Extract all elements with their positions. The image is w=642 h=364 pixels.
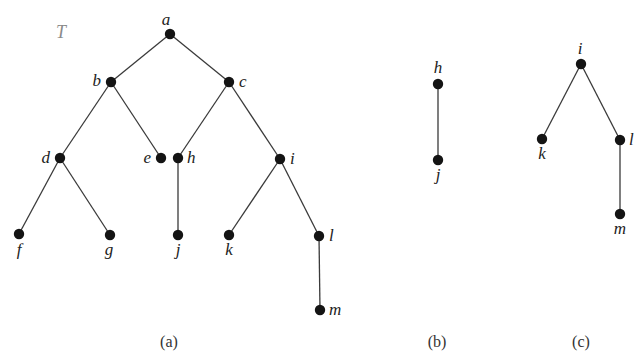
node-label-k: k — [538, 144, 546, 163]
node-h — [173, 153, 183, 163]
node-label-c: c — [239, 72, 247, 91]
node-l — [314, 231, 324, 241]
node-m — [315, 305, 325, 315]
node-label-l: l — [629, 130, 634, 149]
node-label-g: g — [105, 240, 114, 259]
node-label-m: m — [329, 300, 341, 319]
tree-figure: T abcdehifgjklm (a) hj (b) iklm (c) — [0, 0, 642, 364]
node-label-l: l — [329, 226, 334, 245]
node-j — [433, 155, 443, 165]
node-a — [165, 29, 175, 39]
node-j — [173, 230, 183, 240]
node-label-k: k — [225, 240, 233, 259]
node-label-h: h — [434, 58, 443, 77]
node-label-h: h — [187, 148, 196, 167]
node-k — [224, 230, 234, 240]
panel-a-caption: (a) — [160, 333, 178, 351]
node-label-e: e — [143, 148, 151, 167]
node-label-b: b — [93, 71, 102, 90]
node-h — [433, 79, 443, 89]
node-l — [615, 135, 625, 145]
node-label-a: a — [162, 10, 171, 29]
node-label-i: i — [290, 149, 295, 168]
node-k — [537, 134, 547, 144]
node-i — [576, 59, 586, 69]
node-m — [615, 209, 625, 219]
node-label-d: d — [42, 148, 51, 167]
node-label-i: i — [578, 39, 583, 58]
node-g — [105, 230, 115, 240]
node-i — [275, 154, 285, 164]
node-label-m: m — [614, 219, 626, 238]
node-f — [14, 229, 24, 239]
node-c — [224, 77, 234, 87]
node-d — [55, 153, 65, 163]
node-label-j: j — [434, 165, 441, 184]
node-e — [156, 153, 166, 163]
node-label-j: j — [174, 240, 181, 259]
panel-c-caption: (c) — [572, 333, 590, 351]
node-b — [106, 77, 116, 87]
panel-b-caption: (b) — [428, 333, 447, 351]
